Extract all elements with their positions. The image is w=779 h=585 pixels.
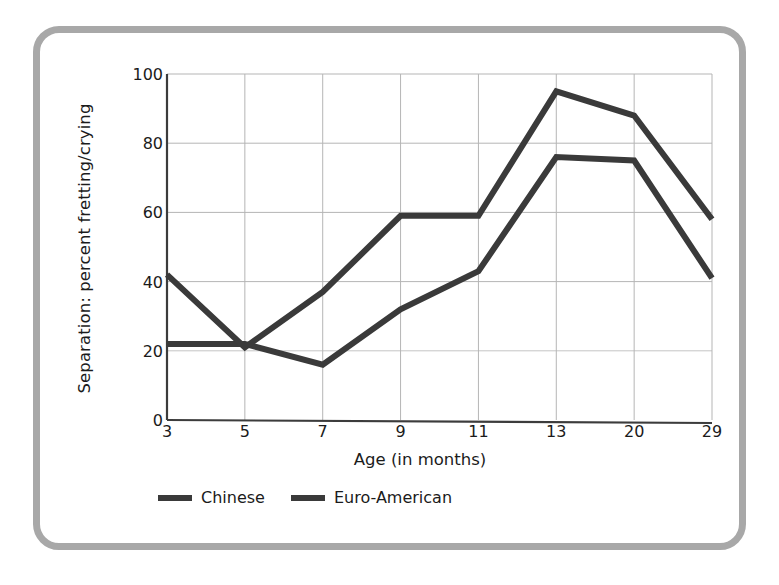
- x-tick-label-29: 29: [692, 422, 732, 441]
- y-tick-label-60: 60: [123, 203, 163, 222]
- x-axis-title: Age (in months): [160, 450, 680, 469]
- data-series-group: [167, 91, 712, 364]
- legend-swatch-euro-american: [291, 495, 325, 501]
- chart-container: 020406080100 357911132029 Separation: pe…: [40, 33, 739, 543]
- figure-frame: 020406080100 357911132029 Separation: pe…: [33, 26, 746, 550]
- y-axis-title: Separation: percent fretting/crying: [75, 89, 94, 409]
- legend-label-chinese: Chinese: [201, 488, 265, 507]
- y-tick-label-80: 80: [123, 134, 163, 153]
- x-tick-label-7: 7: [303, 422, 343, 441]
- series-line-chinese: [167, 157, 712, 365]
- legend-item-euro-american: Euro-American: [291, 488, 452, 507]
- x-tick-label-13: 13: [536, 422, 576, 441]
- y-tick-label-40: 40: [123, 273, 163, 292]
- x-tick-label-20: 20: [614, 422, 654, 441]
- chart-legend: ChineseEuro-American: [158, 488, 452, 507]
- x-tick-label-3: 3: [147, 422, 187, 441]
- y-tick-label-100: 100: [123, 65, 163, 84]
- y-tick-label-20: 20: [123, 342, 163, 361]
- x-tick-label-5: 5: [225, 422, 265, 441]
- x-tick-label-9: 9: [381, 422, 421, 441]
- legend-item-chinese: Chinese: [158, 488, 265, 507]
- legend-label-euro-american: Euro-American: [334, 488, 452, 507]
- series-line-euro-american: [167, 91, 712, 347]
- y-axis-tick-labels: 020406080100: [123, 33, 163, 433]
- legend-swatch-chinese: [158, 495, 192, 501]
- x-axis-tick-labels: 357911132029: [40, 422, 739, 448]
- x-tick-label-11: 11: [458, 422, 498, 441]
